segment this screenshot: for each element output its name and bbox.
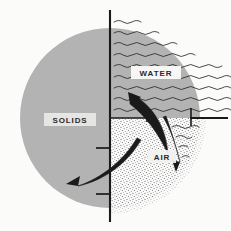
solids-label-group: SOLIDS [44,113,96,126]
solids-label: SOLIDS [52,116,87,125]
diagram-canvas: SOLIDS WATER AIR [0,0,231,231]
air-label-group: AIR [148,150,176,163]
water-label: WATER [140,69,173,78]
water-label-group: WATER [131,66,181,79]
air-label: AIR [154,153,170,162]
three-phase-soil-diagram: SOLIDS WATER AIR [0,0,231,231]
